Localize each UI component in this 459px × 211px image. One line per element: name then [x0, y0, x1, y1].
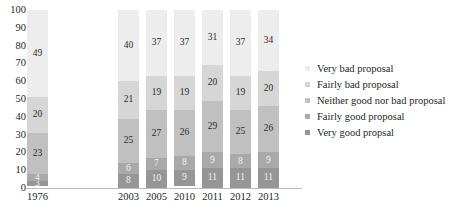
- y-axis-tick-10: 10: [0, 165, 26, 175]
- bar-segment-2010-1: 19: [174, 76, 195, 110]
- y-axis-tick-80: 80: [0, 41, 26, 51]
- segment-value-label: 19: [180, 88, 190, 98]
- bar-1976: 49202343: [27, 10, 48, 188]
- stacked-bar-chart: 1009080706050403020100 49202343402125683…: [0, 0, 459, 211]
- bar-segment-2013-3: 9: [258, 152, 279, 168]
- legend-item-1: Fairly bad proposal: [305, 76, 457, 92]
- legend-item-4: Very good propsal: [305, 124, 457, 140]
- segment-value-label: 19: [236, 88, 246, 98]
- bar-segment-2005-3: 7: [146, 158, 167, 170]
- segment-value-label: 20: [208, 78, 218, 88]
- legend-swatch-icon: [305, 66, 310, 71]
- bar-2011: 312029911: [202, 10, 223, 188]
- segment-value-label: 40: [124, 41, 134, 51]
- y-axis: 1009080706050403020100: [0, 0, 26, 211]
- y-axis-tick-30: 30: [0, 130, 26, 140]
- segment-value-label: 20: [33, 110, 43, 120]
- segment-value-label: 20: [264, 84, 274, 94]
- legend-label: Fairly bad proposal: [317, 79, 399, 90]
- bar-segment-2005-2: 27: [146, 110, 167, 158]
- segment-value-label: 3: [35, 181, 40, 186]
- bar-segment-2011-1: 20: [202, 65, 223, 101]
- segment-value-label: 11: [264, 173, 273, 183]
- segment-value-label: 8: [126, 176, 131, 186]
- legend-swatch-icon: [305, 130, 310, 135]
- bar-segment-2011-4: 11: [202, 168, 223, 188]
- bar-segment-2013-1: 20: [258, 71, 279, 107]
- bar-segment-1976-2: 23: [27, 133, 48, 174]
- segment-value-label: 8: [238, 157, 243, 167]
- bar-segment-2011-3: 9: [202, 152, 223, 168]
- bar-segment-1976-3: 4: [27, 174, 48, 181]
- segment-value-label: 7: [154, 159, 159, 169]
- bar-2003: 40212568: [118, 10, 139, 188]
- segment-value-label: 26: [180, 128, 190, 138]
- bar-segment-2003-4: 8: [118, 174, 139, 188]
- bar-2005: 371927710: [146, 10, 167, 188]
- segment-value-label: 9: [210, 156, 215, 166]
- segment-value-label: 11: [236, 173, 245, 183]
- x-axis-label-1976: 1976: [18, 191, 58, 202]
- bar-segment-1976-0: 49: [27, 10, 48, 97]
- segment-value-label: 8: [182, 158, 187, 168]
- legend-label: Very good propsal: [317, 127, 394, 138]
- bar-segment-2005-4: 10: [146, 170, 167, 188]
- segment-value-label: 23: [33, 149, 43, 159]
- segment-value-label: 10: [152, 174, 162, 184]
- y-axis-tick-60: 60: [0, 76, 26, 86]
- bar-segment-2003-3: 6: [118, 163, 139, 174]
- bar-segment-1976-4: 3: [27, 181, 48, 186]
- bar-segment-2012-1: 19: [230, 76, 251, 110]
- bar-segment-2005-1: 19: [146, 76, 167, 110]
- legend-label: Fairly good proposal: [317, 111, 405, 122]
- bar-segment-2005-0: 37: [146, 10, 167, 76]
- segment-value-label: 9: [182, 173, 187, 183]
- y-axis-tick-20: 20: [0, 147, 26, 157]
- segment-value-label: 37: [180, 38, 190, 48]
- x-axis-baseline: [26, 188, 302, 189]
- bar-segment-2010-4: 9: [174, 170, 195, 186]
- bar-segment-2010-3: 8: [174, 156, 195, 170]
- segment-value-label: 19: [152, 88, 162, 98]
- legend-item-3: Fairly good proposal: [305, 108, 457, 124]
- bar-segment-2013-4: 11: [258, 168, 279, 188]
- segment-value-label: 26: [264, 124, 274, 134]
- legend-label: Very bad proposal: [317, 63, 393, 74]
- legend-swatch-icon: [305, 98, 310, 103]
- segment-value-label: 37: [152, 38, 162, 48]
- bar-segment-2003-1: 21: [118, 81, 139, 118]
- segment-value-label: 11: [208, 173, 217, 183]
- segment-value-label: 29: [208, 122, 218, 132]
- bar-segment-2011-0: 31: [202, 10, 223, 65]
- bar-segment-2013-0: 34: [258, 10, 279, 71]
- bar-segment-2013-2: 26: [258, 106, 279, 152]
- legend-label: Neither good nor bad proposal: [317, 95, 445, 106]
- bar-2013: 342026911: [258, 10, 279, 188]
- bar-segment-2012-0: 37: [230, 10, 251, 76]
- bar-segment-2003-2: 25: [118, 119, 139, 164]
- segment-value-label: 6: [126, 164, 131, 174]
- bar-segment-2011-2: 29: [202, 101, 223, 153]
- y-axis-tick-50: 50: [0, 94, 26, 104]
- bar-segment-2003-0: 40: [118, 10, 139, 81]
- bar-2012: 371925811: [230, 10, 251, 188]
- bar-segment-2010-0: 37: [174, 10, 195, 76]
- segment-value-label: 31: [208, 33, 218, 43]
- x-axis-label-2013: 2013: [249, 191, 289, 202]
- segment-value-label: 25: [236, 127, 246, 137]
- y-axis-tick-90: 90: [0, 23, 26, 33]
- y-axis-tick-100: 100: [0, 5, 26, 15]
- segment-value-label: 34: [264, 36, 274, 46]
- segment-value-label: 4: [35, 174, 40, 181]
- chart-legend: Very bad proposalFairly bad proposalNeit…: [305, 60, 457, 140]
- segment-value-label: 37: [236, 38, 246, 48]
- segment-value-label: 27: [152, 129, 162, 139]
- y-axis-tick-40: 40: [0, 112, 26, 122]
- bar-2010: 37192689: [174, 10, 195, 188]
- segment-value-label: 25: [124, 136, 134, 146]
- legend-swatch-icon: [305, 82, 310, 87]
- segment-value-label: 9: [266, 156, 271, 166]
- bar-segment-2012-4: 11: [230, 168, 251, 188]
- legend-item-0: Very bad proposal: [305, 60, 457, 76]
- segment-value-label: 21: [124, 95, 134, 105]
